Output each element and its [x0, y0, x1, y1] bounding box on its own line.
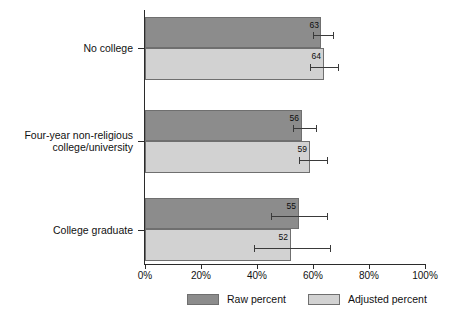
- bar-adjusted-four-year-college: [145, 141, 310, 173]
- legend-swatch-adjusted-percent: [308, 294, 340, 305]
- error-bar-line-raw-no-college: [313, 35, 333, 36]
- x-axis-label-20: 20%: [191, 270, 211, 282]
- value-axis-line: [144, 264, 426, 265]
- bar-adjusted-no-college: [145, 48, 324, 80]
- error-bar-cap-low-adjusted-college-graduate: [254, 245, 255, 252]
- error-bar-line-raw-college-graduate: [271, 216, 327, 217]
- error-bar-cap-high-raw-college-graduate: [327, 213, 328, 220]
- bar-value-raw-four-year-college: 56: [285, 113, 299, 123]
- error-bar-line-raw-four-year-college: [293, 128, 315, 129]
- error-bar-line-adjusted-college-graduate: [254, 248, 330, 249]
- legend-entry-adjusted-percent: Adjusted percent: [308, 293, 427, 305]
- bar-value-raw-college-graduate: 55: [282, 201, 296, 211]
- bar-adjusted-college-graduate: [145, 229, 291, 261]
- category-label-college-graduate: College graduate: [53, 224, 133, 236]
- x-axis-tick-80: [369, 264, 370, 269]
- x-axis-label-60: 60%: [303, 270, 323, 282]
- x-axis-label-40: 40%: [247, 270, 267, 282]
- error-bar-cap-low-raw-college-graduate: [271, 213, 272, 220]
- category-label-no-college: No college: [83, 42, 133, 54]
- bar-value-adjusted-four-year-college: 59: [293, 144, 307, 154]
- error-bar-line-adjusted-four-year-college: [299, 160, 327, 161]
- error-bar-cap-high-adjusted-no-college: [338, 64, 339, 71]
- x-axis-label-80: 80%: [359, 270, 379, 282]
- x-axis-tick-0: [145, 264, 146, 269]
- error-bar-cap-high-raw-no-college: [333, 32, 334, 39]
- x-axis-label-0: 0%: [138, 270, 152, 282]
- category-label-four-year-college: Four-year non-religious college/universi…: [24, 129, 133, 153]
- error-bar-cap-low-adjusted-no-college: [310, 64, 311, 71]
- x-axis-tick-20: [201, 264, 202, 269]
- x-axis-tick-40: [257, 264, 258, 269]
- error-bar-cap-high-raw-four-year-college: [316, 125, 317, 132]
- error-bar-cap-high-adjusted-four-year-college: [327, 157, 328, 164]
- bar-chart: No college Four-year non-religious colle…: [0, 0, 451, 320]
- bar-raw-four-year-college: [145, 110, 302, 141]
- category-tick-1: [138, 141, 145, 142]
- bar-raw-no-college: [145, 17, 321, 48]
- error-bar-cap-high-adjusted-college-graduate: [330, 245, 331, 252]
- chart-legend: Raw percent Adjusted percent: [0, 293, 451, 313]
- error-bar-cap-low-raw-four-year-college: [293, 125, 294, 132]
- category-tick-0: [138, 48, 145, 49]
- error-bar-cap-low-adjusted-four-year-college: [299, 157, 300, 164]
- x-axis-tick-60: [313, 264, 314, 269]
- bar-value-raw-no-college: 63: [305, 20, 319, 30]
- error-bar-line-adjusted-no-college: [310, 67, 338, 68]
- bar-raw-college-graduate: [145, 198, 299, 229]
- x-axis-label-100: 100%: [412, 270, 438, 282]
- bar-value-adjusted-no-college: 64: [307, 51, 321, 61]
- plot-area: 63 64 56 59 55: [145, 10, 425, 264]
- legend-label-adjusted-percent: Adjusted percent: [348, 293, 427, 305]
- bar-value-adjusted-college-graduate: 52: [274, 232, 288, 242]
- category-tick-2: [138, 230, 145, 231]
- legend-label-raw-percent: Raw percent: [227, 293, 286, 305]
- x-axis-tick-100: [425, 264, 426, 269]
- legend-swatch-raw-percent: [187, 294, 219, 305]
- error-bar-cap-low-raw-no-college: [313, 32, 314, 39]
- legend-entry-raw-percent: Raw percent: [187, 293, 286, 305]
